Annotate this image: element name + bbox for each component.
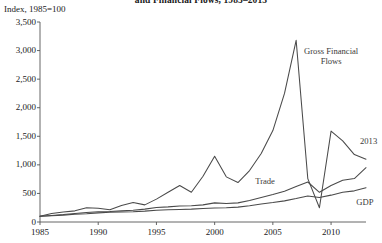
x-tick-label: 2000 xyxy=(195,228,235,237)
x-tick-label: 1995 xyxy=(136,228,176,237)
series-label-trade: Trade xyxy=(255,177,289,187)
x-tick-label: 2010 xyxy=(311,228,351,237)
series-label-gdp: GDP xyxy=(356,198,382,208)
y-tick-label: 1,500 xyxy=(0,132,36,141)
y-tick-label: 1,000 xyxy=(0,160,36,169)
series-label-2013: 2013 xyxy=(360,137,382,147)
y-tick-label: 0 xyxy=(0,218,36,227)
y-tick-label: 3,000 xyxy=(0,46,36,55)
x-tick-label: 2005 xyxy=(253,228,293,237)
y-tick-label: 500 xyxy=(0,189,36,198)
x-tick-label: 1990 xyxy=(78,228,118,237)
y-tick-label: 3,500 xyxy=(0,18,36,27)
x-tick-label: 1985 xyxy=(20,228,60,237)
series-label-gross-financial-flows: Gross Financial Flows xyxy=(298,47,364,66)
y-tick-label: 2,000 xyxy=(0,103,36,112)
y-tick-label: 2,500 xyxy=(0,75,36,84)
